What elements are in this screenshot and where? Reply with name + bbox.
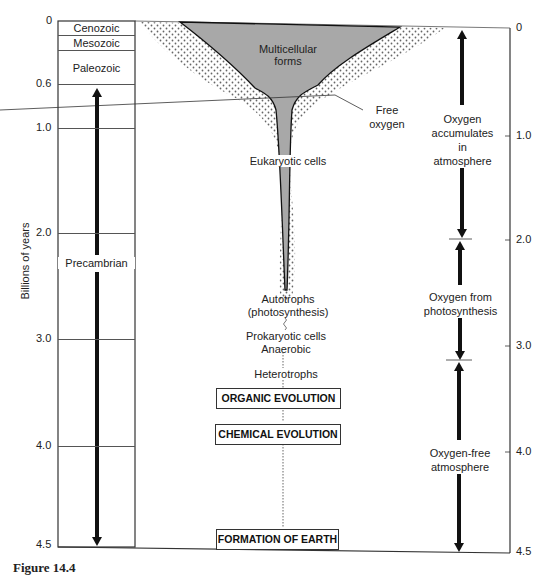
label-heterotrophs: Heterotrophs <box>243 368 329 380</box>
label-autotrophs: Autotrophs (photosynthesis) <box>243 293 333 319</box>
left-tick-2-0: 2.0 <box>36 226 51 238</box>
left-tick-4-0: 4.0 <box>36 439 51 451</box>
era-divider <box>58 84 135 85</box>
era-divider <box>58 50 135 51</box>
left-tick-0: 0 <box>46 14 52 26</box>
figure-caption: Figure 14.4 <box>13 560 76 576</box>
era-divider <box>58 128 135 129</box>
left-tick-3-0: 3.0 <box>36 332 51 344</box>
right-tick-4-0: 4.0 <box>516 445 531 457</box>
oxygen-accumulates-label: Oxygen accumulates in atmosphere <box>420 112 505 168</box>
right-tick-1-0: 1.0 <box>516 129 531 141</box>
oxygen-photosynthesis-label: Oxygen from photosynthesis <box>413 290 508 318</box>
left-tick-4-5: 4.5 <box>36 538 51 550</box>
era-cenozoic: Cenozoic <box>58 22 135 34</box>
label-eukaryotic: Eukaryotic cells <box>243 155 333 167</box>
oxygen-free-label: Oxygen-free atmosphere <box>420 446 500 474</box>
era-precambrian: Precambrian <box>58 257 135 269</box>
era-divider <box>58 339 135 340</box>
squiggle <box>284 318 287 330</box>
left-tick-1-0: 1.0 <box>36 121 51 133</box>
right-tick-4-5: 4.5 <box>516 545 531 557</box>
left-tick-0-6: 0.6 <box>36 77 51 89</box>
right-tick-3-0: 3.0 <box>516 339 531 351</box>
era-divider <box>58 35 135 36</box>
label-multicellular: Multicellular forms <box>248 43 328 67</box>
era-divider <box>58 446 135 447</box>
label-free-oxygen: Free oxygen <box>362 103 412 131</box>
stage-organic-evolution: ORGANIC EVOLUTION <box>216 388 341 409</box>
era-paleozoic: Paleozoic <box>58 62 135 74</box>
y-axis-label: Billions of years <box>19 216 31 306</box>
era-mesozoic: Mesozoic <box>58 37 135 49</box>
right-tick-0: 0 <box>516 21 522 33</box>
right-tick-2-0: 2.0 <box>516 233 531 245</box>
stage-chemical-evolution: CHEMICAL EVOLUTION <box>215 424 341 445</box>
label-prokaryotic: Prokaryotic cells Anaerobic <box>238 330 334 356</box>
stage-formation-of-earth: FORMATION OF EARTH <box>216 529 339 550</box>
era-divider <box>58 233 135 234</box>
